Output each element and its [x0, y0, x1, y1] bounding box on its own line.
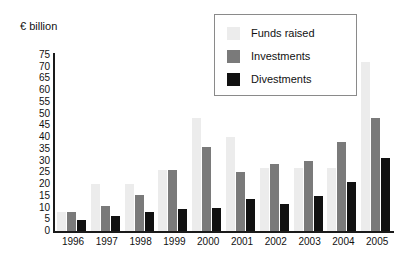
bar-funds-raised-1997: [91, 184, 100, 231]
bar-investments-2002: [270, 164, 279, 231]
y-axis-line: [53, 53, 55, 233]
x-axis-tick-1998: 1998: [124, 236, 158, 247]
bar-investments-2003: [304, 161, 313, 231]
legend-entry-funds-raised: Funds raised: [227, 26, 315, 40]
y-axis-tick-15: 15: [28, 191, 50, 201]
bar-investments-2000: [202, 147, 211, 231]
y-axis-tick-35: 35: [28, 144, 50, 154]
y-axis-tick-10: 10: [28, 203, 50, 213]
bar-divestments-2003: [314, 196, 323, 231]
y-axis-tick-labels: 051015202530354045505560657075: [26, 0, 50, 265]
bar-funds-raised-2000: [192, 118, 201, 231]
legend-swatch-divestments: [227, 73, 240, 86]
x-axis-tick-2004: 2004: [326, 236, 360, 247]
bar-divestments-1999: [178, 209, 187, 231]
legend-entry-investments: Investments: [227, 49, 310, 63]
bar-divestments-1996: [77, 220, 86, 231]
bar-group-1996: [57, 55, 91, 231]
bar-funds-raised-1996: [57, 212, 66, 231]
bar-funds-raised-2001: [226, 137, 235, 231]
y-axis-tick-20: 20: [28, 179, 50, 189]
y-axis-tick-70: 70: [28, 62, 50, 72]
legend-label-funds-raised: Funds raised: [251, 27, 315, 39]
bar-chart: € billion 051015202530354045505560657075…: [0, 0, 410, 265]
x-axis-tick-2002: 2002: [259, 236, 293, 247]
x-axis-tick-1996: 1996: [56, 236, 90, 247]
bar-group-1998: [125, 55, 159, 231]
bar-divestments-1998: [145, 212, 154, 231]
bar-divestments-2001: [246, 199, 255, 231]
legend-entry-divestments: Divestments: [227, 72, 312, 86]
x-axis-line: [53, 231, 394, 233]
y-axis-tick-5: 5: [28, 214, 50, 224]
bar-divestments-1997: [111, 216, 120, 231]
legend-label-divestments: Divestments: [251, 73, 312, 85]
bar-investments-2005: [371, 118, 380, 231]
bar-investments-1999: [168, 170, 177, 231]
legend-swatch-investments: [227, 50, 240, 63]
bar-divestments-2000: [212, 208, 221, 231]
x-axis-tick-2001: 2001: [225, 236, 259, 247]
x-axis-tick-2005: 2005: [360, 236, 394, 247]
bar-funds-raised-2003: [294, 168, 303, 231]
bar-group-1999: [158, 55, 192, 231]
bar-divestments-2005: [381, 158, 390, 231]
bar-group-1997: [91, 55, 125, 231]
y-axis-tick-25: 25: [28, 167, 50, 177]
y-axis-tick-75: 75: [28, 50, 50, 60]
bar-investments-1998: [135, 195, 144, 231]
bar-divestments-2004: [347, 182, 356, 231]
bar-investments-2004: [337, 142, 346, 231]
x-axis-tick-1999: 1999: [157, 236, 191, 247]
bar-funds-raised-2004: [327, 168, 336, 231]
bar-funds-raised-2002: [260, 168, 269, 231]
y-axis-tick-0: 0: [28, 226, 50, 236]
x-axis-tick-1997: 1997: [90, 236, 124, 247]
bar-investments-1996: [67, 212, 76, 231]
bar-group-2005: [361, 55, 395, 231]
x-axis-tick-2000: 2000: [191, 236, 225, 247]
y-axis-tick-40: 40: [28, 132, 50, 142]
y-axis-tick-50: 50: [28, 109, 50, 119]
bar-funds-raised-2005: [361, 62, 370, 231]
bar-investments-1997: [101, 206, 110, 231]
y-axis-tick-55: 55: [28, 97, 50, 107]
y-axis-tick-60: 60: [28, 85, 50, 95]
bar-investments-2001: [236, 172, 245, 231]
legend-label-investments: Investments: [251, 50, 310, 62]
bar-funds-raised-1998: [125, 184, 134, 231]
y-axis-tick-30: 30: [28, 156, 50, 166]
legend-swatch-funds-raised: [227, 27, 240, 40]
x-axis-tick-2003: 2003: [293, 236, 327, 247]
y-axis-tick-65: 65: [28, 73, 50, 83]
bar-funds-raised-1999: [158, 170, 167, 231]
bar-divestments-2002: [280, 204, 289, 231]
chart-legend: Funds raisedInvestmentsDivestments: [214, 14, 357, 96]
y-axis-tick-45: 45: [28, 120, 50, 130]
